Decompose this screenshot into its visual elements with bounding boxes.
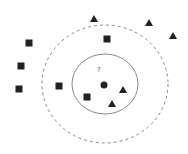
square-marker (26, 40, 33, 47)
square-marker (56, 83, 63, 90)
diagram-canvas (0, 0, 188, 154)
triangle-marker (169, 32, 177, 39)
triangle-marker (108, 100, 116, 107)
query-point-circle (101, 82, 108, 89)
triangle-marker (145, 19, 153, 26)
triangle-marker (119, 86, 127, 93)
triangle-marker (90, 15, 98, 22)
query-label: ? (97, 66, 101, 74)
square-marker (104, 36, 111, 43)
knn-diagram: ? (0, 0, 188, 154)
square-marker (84, 94, 91, 101)
square-marker (16, 86, 23, 93)
square-marker (18, 63, 25, 70)
